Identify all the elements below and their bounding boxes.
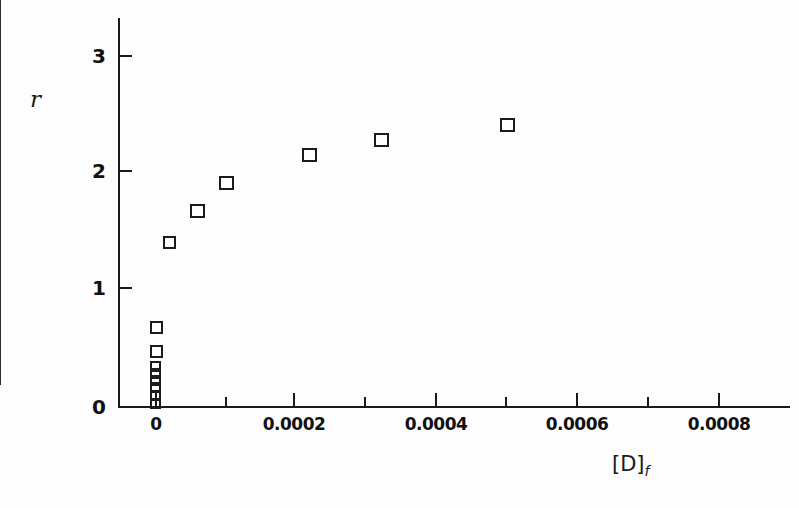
data-point-marker — [150, 361, 161, 372]
x-tick-0.0002 — [293, 393, 295, 406]
x-tick-minor-1 — [225, 397, 227, 406]
x-axis-title-main: [D] — [612, 452, 645, 476]
x-tick-minor-3 — [364, 397, 366, 406]
data-point-marker — [219, 176, 234, 190]
y-tick-1 — [120, 287, 132, 289]
data-point-marker — [500, 118, 515, 132]
data-point-marker — [374, 133, 389, 147]
x-tick-label-0.0006: 0.0006 — [546, 414, 609, 434]
chart-screenshot: 3 2 1 0 0 0.0002 0.0004 0.0006 0.0008 r … — [0, 0, 799, 508]
y-tick-label-3: 3 — [72, 44, 106, 68]
y-tick-2 — [120, 170, 132, 172]
y-tick-label-2: 2 — [72, 159, 106, 183]
x-tick-label-0.0002: 0.0002 — [263, 414, 326, 434]
y-tick-label-0: 0 — [72, 395, 106, 419]
data-point-marker — [190, 204, 205, 218]
plot-area: 3 2 1 0 0 0.0002 0.0004 0.0006 0.0008 r … — [0, 0, 799, 508]
y-tick-label-1: 1 — [72, 276, 106, 300]
x-tick-minor-7 — [647, 397, 649, 406]
x-zero-reference-line — [0, 0, 1, 385]
x-tick-label-0: 0 — [150, 414, 161, 434]
x-axis-title-subscript: f — [645, 463, 650, 479]
y-tick-3 — [120, 55, 132, 57]
x-tick-label-0.0008: 0.0008 — [688, 414, 751, 434]
x-tick-0.0004 — [435, 393, 437, 406]
x-axis-title: [D]f — [612, 452, 650, 479]
data-point-marker — [163, 236, 176, 249]
x-tick-label-0.0004: 0.0004 — [405, 414, 468, 434]
x-tick-minor-5 — [505, 397, 507, 406]
data-point-marker — [150, 321, 163, 334]
y-axis-title: r — [30, 86, 41, 112]
x-tick-0.0006 — [576, 393, 578, 406]
x-axis-spine — [118, 406, 790, 408]
data-point-marker — [150, 345, 163, 358]
y-axis-spine — [118, 18, 120, 408]
data-point-marker — [302, 148, 317, 162]
x-tick-0.0008 — [718, 393, 720, 406]
